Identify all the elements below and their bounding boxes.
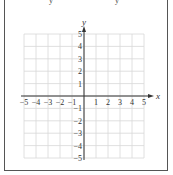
svg-text:−1: −1 — [73, 104, 82, 113]
coordinate-plane: xy−5−4−3−2−11234554321−1−2−3−4−5 — [0, 0, 173, 175]
svg-text:2: 2 — [106, 98, 110, 107]
svg-text:5: 5 — [78, 30, 82, 39]
svg-text:−2: −2 — [73, 117, 82, 126]
svg-text:5: 5 — [142, 98, 146, 107]
svg-text:2: 2 — [78, 67, 82, 76]
svg-text:−4: −4 — [32, 98, 41, 107]
svg-text:−5: −5 — [73, 154, 82, 163]
svg-text:1: 1 — [94, 98, 98, 107]
svg-text:−4: −4 — [73, 142, 82, 151]
svg-text:−2: −2 — [56, 98, 65, 107]
svg-text:−3: −3 — [44, 98, 53, 107]
svg-text:−5: −5 — [20, 98, 29, 107]
svg-text:x: x — [155, 91, 160, 101]
svg-text:4: 4 — [78, 42, 82, 51]
svg-text:4: 4 — [130, 98, 134, 107]
svg-text:3: 3 — [118, 98, 122, 107]
tick-labels: xy−5−4−3−2−11234554321−1−2−3−4−5 — [20, 17, 160, 163]
svg-text:3: 3 — [78, 55, 82, 64]
svg-text:1: 1 — [78, 80, 82, 89]
svg-text:y: y — [81, 17, 86, 27]
svg-text:−3: −3 — [73, 129, 82, 138]
